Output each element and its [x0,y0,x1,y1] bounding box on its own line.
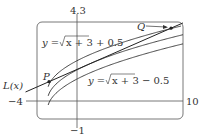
linearization-chart: 4.3 −1 −4 10 y = x + 3 + 0.5 y = x + 3 −… [0,0,207,136]
x-min-label: −4 [8,96,23,107]
point-p-label: P [42,71,50,82]
y-max-label: 4.3 [70,5,86,16]
point-q-marker [169,27,172,30]
y-min-label: −1 [70,125,85,136]
lower-curve-label-lhs: y = [87,75,105,86]
svg-text:y =: y = [41,37,59,48]
lower-curve-label-rhs: x + 3 − 0.5 [112,75,169,86]
line-label: L(x) [2,80,23,91]
svg-text:y =: y = [87,75,105,86]
lower-curve-label: y = x + 3 − 0.5 [87,74,169,86]
upper-curve-label-rhs: x + 3 + 0.5 [66,37,123,48]
x-max-label: 10 [186,96,199,107]
point-q-label: Q [137,21,145,32]
upper-curve-label-lhs: y = [41,37,59,48]
q-arrowhead-icon [163,25,168,29]
upper-curve-label: y = x + 3 + 0.5 [41,36,123,48]
